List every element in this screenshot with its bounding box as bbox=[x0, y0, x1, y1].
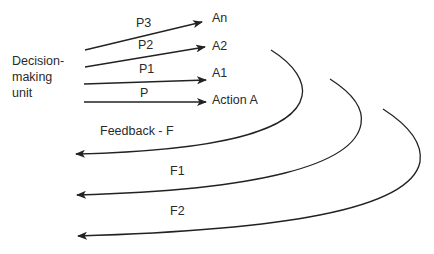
feedback-label-f: Feedback - F bbox=[100, 124, 174, 138]
feedback-label-f2: F2 bbox=[170, 204, 185, 218]
path-label-p2: P2 bbox=[138, 38, 153, 52]
unit-line-1: Decision- bbox=[12, 53, 82, 69]
arrow-p1 bbox=[84, 80, 206, 84]
path-label-p3: P3 bbox=[136, 16, 151, 30]
unit-line-2: making bbox=[12, 69, 82, 85]
decision-making-unit-label: Decision- making unit bbox=[12, 53, 82, 101]
action-label-a1: A1 bbox=[212, 66, 227, 80]
unit-line-3: unit bbox=[12, 85, 82, 101]
action-label-a2: A2 bbox=[212, 39, 227, 53]
action-label-a: Action A bbox=[212, 93, 258, 107]
feedback-label-f1: F1 bbox=[170, 164, 185, 178]
path-label-p: P bbox=[140, 86, 148, 100]
action-label-an: An bbox=[212, 11, 227, 25]
path-label-p1: P1 bbox=[139, 62, 154, 76]
